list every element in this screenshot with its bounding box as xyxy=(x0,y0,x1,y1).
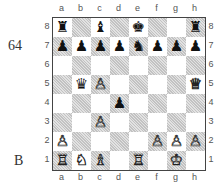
square-a6[interactable] xyxy=(53,56,72,75)
square-g5[interactable] xyxy=(167,75,186,94)
square-e8[interactable]: ♚ xyxy=(129,18,148,37)
square-e7[interactable]: ♞ xyxy=(129,37,148,56)
square-g1[interactable]: ♔ xyxy=(167,151,186,170)
square-e4[interactable] xyxy=(129,94,148,113)
black-pawn-icon[interactable]: ♟ xyxy=(189,39,202,54)
square-g8[interactable] xyxy=(167,18,186,37)
black-pawn-icon[interactable]: ♟ xyxy=(113,39,126,54)
square-d7[interactable]: ♟ xyxy=(110,37,129,56)
white-pawn-icon[interactable]: ♙ xyxy=(56,134,69,149)
square-e6[interactable] xyxy=(129,56,148,75)
square-c7[interactable]: ♟ xyxy=(91,37,110,56)
square-c2[interactable] xyxy=(91,132,110,151)
white-pawn-icon[interactable]: ♙ xyxy=(94,77,107,92)
black-pawn-icon[interactable]: ♟ xyxy=(94,39,107,54)
black-rook-icon[interactable]: ♜ xyxy=(189,20,202,35)
file-label: f xyxy=(147,3,166,15)
square-c3[interactable]: ♙ xyxy=(91,113,110,132)
square-e1[interactable]: ♖ xyxy=(129,151,148,170)
square-h2[interactable]: ♙ xyxy=(186,132,205,151)
square-d1[interactable] xyxy=(110,151,129,170)
square-e5[interactable] xyxy=(129,75,148,94)
square-f7[interactable]: ♟ xyxy=(148,37,167,56)
white-pawn-icon[interactable]: ♙ xyxy=(94,115,107,130)
file-label: c xyxy=(90,3,109,15)
white-pawn-icon[interactable]: ♙ xyxy=(189,134,202,149)
file-label: g xyxy=(166,172,185,184)
black-rook-icon[interactable]: ♜ xyxy=(56,20,69,35)
white-rook-icon[interactable]: ♖ xyxy=(56,153,69,168)
square-d6[interactable] xyxy=(110,56,129,75)
square-b1[interactable]: ♘ xyxy=(72,151,91,170)
square-f4[interactable] xyxy=(148,94,167,113)
square-g2[interactable]: ♙ xyxy=(167,132,186,151)
rank-label: 1 xyxy=(206,150,216,169)
square-h3[interactable] xyxy=(186,113,205,132)
square-a7[interactable]: ♟ xyxy=(53,37,72,56)
square-f5[interactable] xyxy=(148,75,167,94)
square-g4[interactable] xyxy=(167,94,186,113)
rank-labels-left: 8 7 6 5 4 3 2 1 xyxy=(42,17,52,169)
square-b5[interactable]: ♛ xyxy=(72,75,91,94)
square-d4[interactable]: ♟ xyxy=(110,94,129,113)
file-label: a xyxy=(52,172,71,184)
rank-label: 6 xyxy=(42,55,52,74)
square-d8[interactable] xyxy=(110,18,129,37)
black-pawn-icon[interactable]: ♟ xyxy=(75,39,88,54)
square-g6[interactable] xyxy=(167,56,186,75)
square-h7[interactable]: ♟ xyxy=(186,37,205,56)
square-b8[interactable] xyxy=(72,18,91,37)
square-h5[interactable]: ♕ xyxy=(186,75,205,94)
square-c6[interactable] xyxy=(91,56,110,75)
black-queen-icon[interactable]: ♛ xyxy=(75,77,88,92)
square-a5[interactable] xyxy=(53,75,72,94)
square-c5[interactable]: ♙ xyxy=(91,75,110,94)
black-bishop-icon[interactable]: ♝ xyxy=(94,20,107,35)
square-g7[interactable]: ♟ xyxy=(167,37,186,56)
square-a3[interactable] xyxy=(53,113,72,132)
square-c4[interactable] xyxy=(91,94,110,113)
square-b6[interactable] xyxy=(72,56,91,75)
square-a8[interactable]: ♜ xyxy=(53,18,72,37)
white-king-icon[interactable]: ♔ xyxy=(170,153,183,168)
square-c1[interactable]: ♗ xyxy=(91,151,110,170)
square-f8[interactable] xyxy=(148,18,167,37)
square-h4[interactable] xyxy=(186,94,205,113)
square-a1[interactable]: ♖ xyxy=(53,151,72,170)
diagram-number: 64 xyxy=(8,38,22,54)
black-pawn-icon[interactable]: ♟ xyxy=(151,39,164,54)
square-b2[interactable] xyxy=(72,132,91,151)
white-knight-icon[interactable]: ♘ xyxy=(75,153,88,168)
white-pawn-icon[interactable]: ♙ xyxy=(170,134,183,149)
black-king-icon[interactable]: ♚ xyxy=(132,20,145,35)
white-queen-icon[interactable]: ♕ xyxy=(189,77,202,92)
square-d5[interactable] xyxy=(110,75,129,94)
rank-label: 7 xyxy=(42,36,52,55)
square-g3[interactable] xyxy=(167,113,186,132)
square-e3[interactable] xyxy=(129,113,148,132)
white-rook-icon[interactable]: ♖ xyxy=(132,153,145,168)
square-a4[interactable] xyxy=(53,94,72,113)
square-f1[interactable] xyxy=(148,151,167,170)
black-knight-icon[interactable]: ♞ xyxy=(132,39,145,54)
square-b7[interactable]: ♟ xyxy=(72,37,91,56)
square-b3[interactable] xyxy=(72,113,91,132)
square-h1[interactable] xyxy=(186,151,205,170)
square-f6[interactable] xyxy=(148,56,167,75)
white-pawn-icon[interactable]: ♙ xyxy=(151,134,164,149)
black-pawn-icon[interactable]: ♟ xyxy=(170,39,183,54)
square-c8[interactable]: ♝ xyxy=(91,18,110,37)
square-d3[interactable] xyxy=(110,113,129,132)
square-h8[interactable]: ♜ xyxy=(186,18,205,37)
square-a2[interactable]: ♙ xyxy=(53,132,72,151)
black-pawn-icon[interactable]: ♟ xyxy=(113,96,126,111)
square-f3[interactable] xyxy=(148,113,167,132)
file-label: c xyxy=(90,172,109,184)
square-e2[interactable] xyxy=(129,132,148,151)
white-bishop-icon[interactable]: ♗ xyxy=(94,153,107,168)
square-f2[interactable]: ♙ xyxy=(148,132,167,151)
square-d2[interactable] xyxy=(110,132,129,151)
square-h6[interactable] xyxy=(186,56,205,75)
black-pawn-icon[interactable]: ♟ xyxy=(56,39,69,54)
square-b4[interactable] xyxy=(72,94,91,113)
